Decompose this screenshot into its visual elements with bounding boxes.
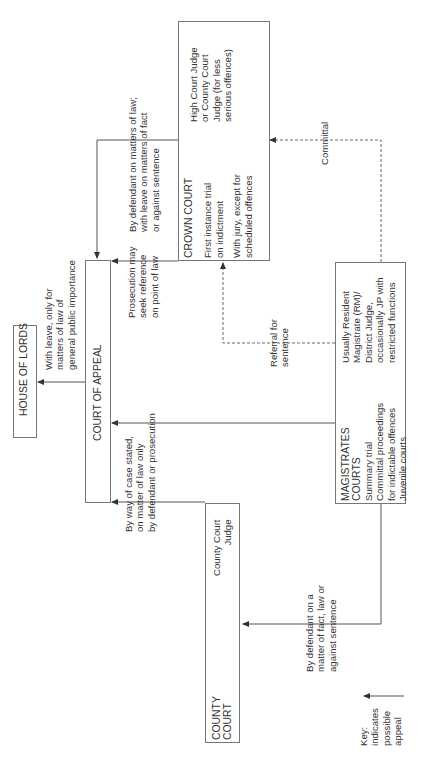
magistrates-title: MAGISTRATES	[340, 403, 351, 501]
crown-court-title: CROWN COURT	[183, 174, 194, 258]
key-line: appeal	[392, 708, 403, 746]
label-line: matters of law of	[54, 260, 65, 370]
label-line: With leave, only for	[43, 260, 54, 370]
label-line: Committal	[319, 122, 330, 165]
crown-court-line: scheduled offences	[243, 174, 254, 258]
key-line: indicates	[369, 708, 380, 746]
judge-line: Judge	[222, 519, 233, 576]
label-crown-defendant: By defendant on matters of law; with lea…	[127, 97, 161, 232]
house-of-lords-title: HOUSE OF LORDS	[18, 323, 29, 416]
judge-line: occasionally JP with	[374, 277, 385, 363]
label-mag-to-county: By defendant on a matter of fact, law or…	[304, 585, 338, 672]
magistrates-function: Committal proceedings	[374, 403, 385, 501]
label-line: on point of law	[149, 247, 160, 318]
label-line: with leave on matters of fact	[138, 97, 149, 232]
judge-line: High Court Judge	[188, 47, 199, 122]
county-court-box: COUNTY COURT County Court Judge	[205, 503, 240, 743]
judge-line: serious offences)	[222, 47, 233, 122]
label-line: on matter of law only	[134, 413, 145, 532]
label-line: By way of case stated,	[123, 413, 134, 532]
county-court-judge: County Court Judge	[211, 519, 234, 576]
crown-court-line: First instance trial	[202, 174, 213, 258]
crown-court-line: With jury, except for	[231, 174, 242, 258]
judge-line: restricted functions	[386, 277, 397, 363]
magistrates-function: for indictable offences	[386, 403, 397, 501]
label-line: by defendant or prosecution	[146, 413, 157, 532]
label-line: By defendant on matters of law;	[127, 97, 138, 232]
label-committal: Committal	[319, 122, 330, 165]
label-line: against sentence	[327, 585, 338, 672]
crown-court-content: CROWN COURT First instance trial on indi…	[183, 174, 254, 258]
label-coa-to-hol: With leave, only for matters of law of g…	[43, 260, 77, 370]
label-line: matter of fact, law or	[315, 585, 326, 672]
judge-line: Usually Resident	[340, 277, 351, 363]
label-case-stated: By way of case stated, on matter of law …	[123, 413, 157, 532]
county-title-line: COURT	[222, 696, 233, 740]
label-line: or against sentence	[150, 97, 161, 232]
judge-line: Judge (for less	[211, 47, 222, 122]
judge-line: District Judge,	[363, 277, 374, 363]
crown-court-line: on indictment	[214, 174, 225, 258]
judge-line: Magistrate (RM)/	[351, 277, 362, 363]
house-of-lords-box: HOUSE OF LORDS	[13, 325, 37, 438]
county-court-title: COUNTY COURT	[211, 696, 234, 740]
crown-court-judge: High Court Judge or County Court Judge (…	[188, 47, 234, 122]
magistrates-content: MAGISTRATES COURTS Summary trial Committ…	[340, 403, 408, 501]
label-crown-prosecution: Prosecution may seek reference on point …	[126, 247, 160, 318]
label-line: sentence	[279, 319, 290, 367]
label-line: general public importance	[66, 260, 77, 370]
label-line: Referral for	[268, 319, 279, 367]
court-of-appeal-box: COURT OF APPEAL	[85, 260, 111, 503]
label-line: seek reference	[137, 247, 148, 318]
magistrates-function: Summary trial	[363, 403, 374, 501]
crown-court-box: CROWN COURT First instance trial on indi…	[178, 21, 270, 261]
court-of-appeal-title: COURT OF APPEAL	[92, 344, 103, 441]
magistrates-title: COURTS	[351, 403, 362, 501]
key-line: possible	[381, 708, 392, 746]
judge-line: County Court	[211, 519, 222, 576]
label-line: By defendant on a	[304, 585, 315, 672]
key-label: Key: indicates possible appeal	[358, 708, 404, 746]
magistrates-judge: Usually Resident Magistrate (RM)/ Distri…	[340, 277, 397, 363]
judge-line: or County Court	[199, 47, 210, 122]
magistrates-function: Juvenile courts	[397, 403, 408, 501]
key-line: Key:	[358, 708, 369, 746]
label-referral: Referral for sentence	[268, 319, 291, 367]
county-title-line: COUNTY	[211, 696, 222, 740]
label-line: Prosecution may	[126, 247, 137, 318]
magistrates-courts-box: MAGISTRATES COURTS Summary trial Committ…	[335, 262, 406, 504]
